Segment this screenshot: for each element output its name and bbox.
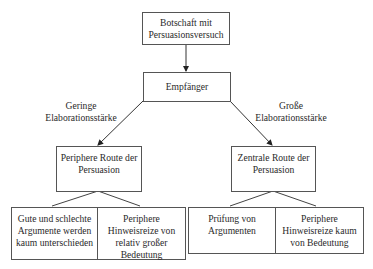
- high-elaboration-label: Große Elaborationsstärke: [246, 100, 336, 124]
- line-peripheral-left: [52, 191, 98, 206]
- peripheral-route-box: Periphere Route der Persuasion: [56, 146, 142, 192]
- message-box: Botschaft mit Persuasionsversuch: [142, 12, 230, 45]
- message-line-1: Botschaft mit: [160, 17, 212, 29]
- central-outcomes-box: Prüfung von Argumenten Periphere Hinweis…: [188, 207, 364, 254]
- peripheral-args-cell: Gute und schlechte Argumente werden kaum…: [12, 208, 98, 259]
- peripheral-cues-cell: Periphere Hinweisreize von relativ große…: [98, 208, 185, 259]
- receiver-label: Empfänger: [166, 81, 209, 93]
- central-route-box: Zentrale Route der Persuasion: [231, 146, 316, 192]
- peripheral-outcomes-box: Gute und schlechte Argumente werden kaum…: [11, 207, 186, 260]
- central-args-cell: Prüfung von Argumenten: [189, 208, 276, 253]
- central-cues-cell: Periphere Hinweisreize kaum von Bedeutun…: [276, 208, 363, 253]
- message-line-2: Persuasionsversuch: [148, 29, 223, 41]
- line-central-left: [230, 191, 273, 206]
- low-elaboration-label: Geringe Elaborationsstärke: [36, 100, 126, 124]
- line-central-right: [273, 191, 316, 206]
- receiver-box: Empfänger: [143, 72, 231, 102]
- line-peripheral-right: [98, 191, 140, 206]
